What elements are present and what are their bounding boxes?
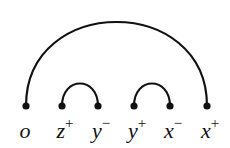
label-y-minus: y− [92, 114, 110, 142]
arc-z-plus-to-y-minus [62, 84, 98, 107]
label-x-minus: x− [164, 114, 182, 142]
node-z-plus [58, 102, 65, 109]
node-x-plus [203, 102, 210, 109]
node-y-plus [130, 102, 137, 109]
label-o: o [20, 114, 31, 142]
node-o [22, 102, 29, 109]
label-z-plus: z+ [56, 114, 73, 142]
arc-o-to-x-plus [26, 22, 207, 106]
arc-diagram [0, 0, 230, 148]
arc-y-plus-to-x-minus [134, 84, 170, 107]
node-x-minus [166, 102, 173, 109]
node-y-minus [94, 102, 101, 109]
label-x-plus: x+ [201, 114, 219, 142]
label-y-plus: y+ [128, 114, 146, 142]
